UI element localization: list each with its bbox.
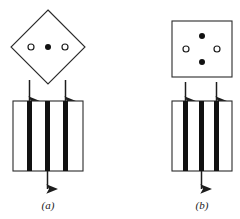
grating-bar [214, 101, 219, 171]
arrows-up-b [186, 82, 217, 101]
grating-bar [63, 101, 68, 171]
open-dot [214, 46, 220, 52]
grating-bar [199, 101, 204, 171]
open-dot [183, 46, 189, 52]
panel-b: (b) [172, 21, 232, 212]
grating-bar [45, 101, 50, 171]
square-outline-b [172, 21, 232, 77]
grating-bar [183, 101, 188, 171]
grating-bar [27, 101, 32, 171]
open-dot [28, 44, 34, 50]
filled-dot [199, 59, 205, 65]
figure-canvas: (a) (b) [0, 0, 240, 219]
panel-a: (a) [11, 10, 85, 212]
panel-label-b: (b) [196, 199, 209, 212]
panel-label-a: (a) [42, 199, 55, 212]
filled-dot [45, 44, 51, 50]
open-dot [62, 44, 68, 50]
diagram-svg: (a) (b) [0, 0, 240, 219]
filled-dot [199, 33, 205, 39]
